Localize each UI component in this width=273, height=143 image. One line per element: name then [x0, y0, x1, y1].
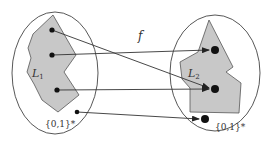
outside-l2-point — [201, 115, 209, 123]
l1-point-2 — [49, 52, 54, 57]
l2-point-2 — [211, 85, 219, 93]
mapping-arrow-4 — [77, 112, 199, 119]
l1-point-3 — [54, 87, 59, 92]
mapping-arrow-2 — [52, 50, 209, 55]
right-universe-label: {0,1}* — [215, 122, 246, 132]
l2-point-1 — [211, 46, 219, 54]
left-universe-label: {0,1}* — [45, 119, 76, 129]
function-label: f — [137, 29, 145, 43]
outside-l1-point — [75, 110, 80, 115]
mapping-arrow-3 — [57, 89, 209, 90]
l1-point-1 — [49, 27, 54, 32]
reduction-diagram: f L1 L2 {0,1}* {0,1}* — [0, 0, 273, 143]
